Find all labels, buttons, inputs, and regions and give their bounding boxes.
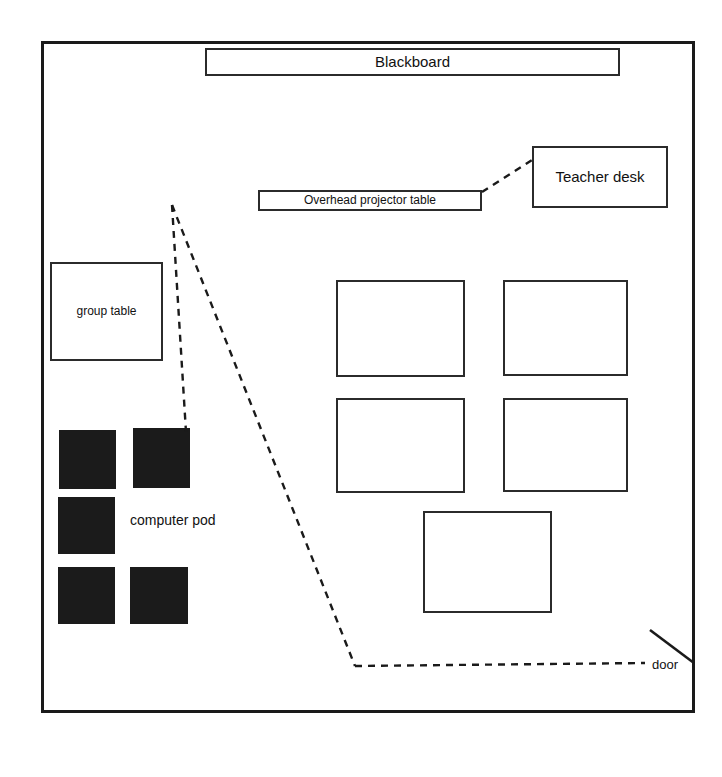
student-desk[interactable]	[503, 398, 628, 492]
blackboard[interactable]: Blackboard	[205, 48, 620, 76]
computer-station[interactable]	[130, 567, 188, 624]
group-table-label: group table	[76, 305, 136, 319]
student-desk[interactable]	[503, 280, 628, 376]
overhead-projector-table-label: Overhead projector table	[304, 194, 436, 208]
computer-station[interactable]	[58, 567, 115, 624]
student-desk[interactable]	[423, 511, 552, 613]
classroom-diagram-canvas: Blackboard Teacher desk Overhead project…	[0, 0, 722, 777]
group-table[interactable]: group table	[50, 262, 163, 361]
computer-pod-label: computer pod	[130, 512, 216, 528]
overhead-projector-table[interactable]: Overhead projector table	[258, 190, 482, 211]
computer-station[interactable]	[133, 428, 190, 488]
computer-station[interactable]	[58, 497, 115, 554]
blackboard-label: Blackboard	[375, 53, 450, 70]
computer-station[interactable]	[59, 430, 116, 489]
student-desk[interactable]	[336, 398, 465, 493]
teacher-desk-label: Teacher desk	[555, 168, 644, 185]
teacher-desk[interactable]: Teacher desk	[532, 146, 668, 208]
door-label: door	[652, 657, 678, 672]
student-desk[interactable]	[336, 280, 465, 377]
